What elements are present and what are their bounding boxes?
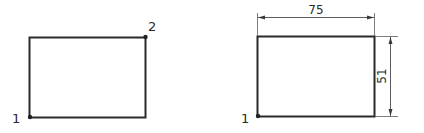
left-point-2-marker [143,35,147,39]
height-dimension-value: 51 [375,68,389,83]
left-point-1-label: 1 [12,111,20,126]
left-rectangle [30,38,146,118]
right-rectangle [258,37,375,117]
left-point-1-marker [28,115,32,119]
height-arrow-bottom-icon [389,109,393,116]
right-figure: 1 75 51 [241,3,398,126]
right-point-1-marker [256,114,260,118]
left-point-2-label: 2 [148,19,156,34]
height-dimension: 51 [375,37,398,117]
width-dimension: 75 [258,3,375,36]
right-point-1-label: 1 [241,111,249,126]
height-arrow-top-icon [389,37,393,44]
diagram-canvas: 1 2 1 75 51 [0,0,424,133]
width-dimension-value: 75 [308,3,323,17]
width-arrow-right-icon [367,16,374,20]
left-figure: 1 2 [12,19,156,126]
width-arrow-left-icon [258,16,265,20]
